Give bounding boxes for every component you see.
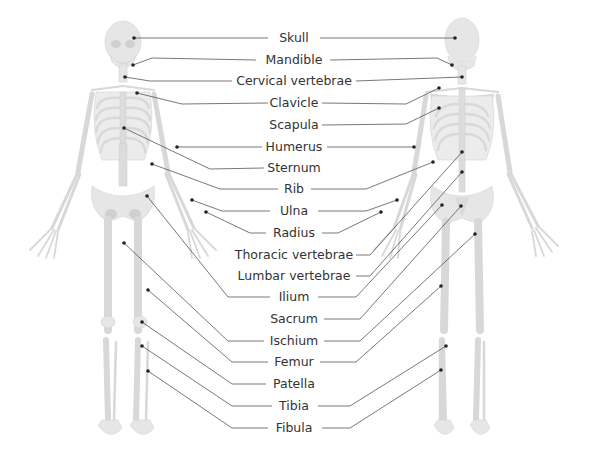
front-spine xyxy=(119,144,127,186)
label-patella: Patella xyxy=(273,376,315,391)
leader-cervical-front xyxy=(125,77,232,81)
back-skeleton xyxy=(374,18,558,434)
marker-dot-radius-front xyxy=(204,210,208,214)
leader-mandible-front xyxy=(133,58,256,65)
leader-mandible-back xyxy=(330,58,452,65)
marker-dot-femur-back xyxy=(439,284,443,288)
marker-dot-ulna-front xyxy=(190,198,194,202)
skeleton-diagram: Skull Mandible Cervical vertebrae Clavic… xyxy=(0,0,589,457)
marker-dot-lumbar-back xyxy=(460,170,464,174)
marker-dot-mandible-front xyxy=(131,63,135,67)
marker-dot-tibia-front xyxy=(140,344,144,348)
marker-dot-cervical-back xyxy=(460,75,464,79)
label-humerus: Humerus xyxy=(266,139,323,154)
marker-dot-radius-back xyxy=(379,210,383,214)
marker-dot-femur-front xyxy=(146,288,150,292)
front-pelvis xyxy=(91,186,154,222)
label-femur: Femur xyxy=(274,354,314,369)
label-rib: Rib xyxy=(284,181,304,196)
marker-dot-patella-front xyxy=(140,320,144,324)
back-ribcage xyxy=(430,88,494,192)
leader-cervical-back xyxy=(356,77,462,81)
marker-dot-ulna-back xyxy=(395,198,399,202)
marker-dot-ischium-back xyxy=(473,232,477,236)
marker-dot-sternum-front xyxy=(122,126,126,130)
back-neck xyxy=(458,66,466,84)
labels: Skull Mandible Cervical vertebrae Clavic… xyxy=(234,30,354,435)
front-skeleton xyxy=(30,21,216,434)
leader-ulna-front xyxy=(192,200,270,211)
label-lumbar-vertebrae: Lumbar vertebrae xyxy=(238,268,351,283)
label-radius: Radius xyxy=(273,225,315,240)
marker-dot-ilium-back xyxy=(440,203,444,207)
marker-dot-clavicle-front xyxy=(135,91,139,95)
back-legs xyxy=(434,222,490,434)
marker-dot-humerus-back xyxy=(412,145,416,149)
label-skull: Skull xyxy=(279,30,309,45)
front-neck xyxy=(119,64,127,82)
label-cervical-vertebrae: Cervical vertebrae xyxy=(236,73,352,88)
marker-dot-thoracic-back xyxy=(460,150,464,154)
leader-sacrum-back xyxy=(324,206,461,319)
marker-dot-skull-back xyxy=(453,36,457,40)
label-thoracic-vertebrae: Thoracic vertebrae xyxy=(234,247,354,262)
leader-tibia-front xyxy=(142,346,272,406)
label-ilium: Ilium xyxy=(279,289,310,304)
label-fibula: Fibula xyxy=(276,420,313,435)
marker-dot-ilium-front xyxy=(145,194,149,198)
marker-dot-fibula-front xyxy=(146,369,150,373)
marker-dot-fibula-back xyxy=(439,368,443,372)
leader-fibula-front xyxy=(148,371,268,428)
label-mandible: Mandible xyxy=(266,52,323,67)
leader-fibula-back xyxy=(322,370,441,428)
marker-dot-tibia-back xyxy=(444,344,448,348)
leader-ulna-back xyxy=(318,200,397,211)
leader-radius-back xyxy=(322,212,381,233)
label-scapula: Scapula xyxy=(269,117,318,132)
leader-radius-front xyxy=(206,212,266,233)
marker-dot-clavicle-back xyxy=(437,86,441,90)
leader-patella-front xyxy=(142,322,266,384)
back-skull xyxy=(445,18,479,70)
marker-dot-humerus-front xyxy=(175,145,179,149)
marker-dot-cervical-front xyxy=(123,75,127,79)
marker-dot-rib-front xyxy=(150,162,154,166)
marker-dot-sacrum-back xyxy=(459,204,463,208)
front-clavicles xyxy=(92,86,154,90)
marker-dot-rib-back xyxy=(431,160,435,164)
label-clavicle: Clavicle xyxy=(270,95,319,110)
marker-dot-scapula-back xyxy=(437,106,441,110)
label-ischium: Ischium xyxy=(270,333,319,348)
leader-femur-front xyxy=(148,290,268,362)
label-ulna: Ulna xyxy=(280,203,308,218)
label-sacrum: Sacrum xyxy=(270,311,318,326)
marker-dot-skull-front xyxy=(132,36,136,40)
marker-dot-ischium-front xyxy=(122,241,126,245)
label-tibia: Tibia xyxy=(278,398,309,413)
leader-tibia-back xyxy=(318,346,446,406)
front-legs xyxy=(98,220,154,434)
label-sternum: Sternum xyxy=(267,160,320,175)
front-skull xyxy=(105,21,141,68)
marker-dot-mandible-back xyxy=(450,63,454,67)
leader-clavicle-back xyxy=(322,88,439,104)
